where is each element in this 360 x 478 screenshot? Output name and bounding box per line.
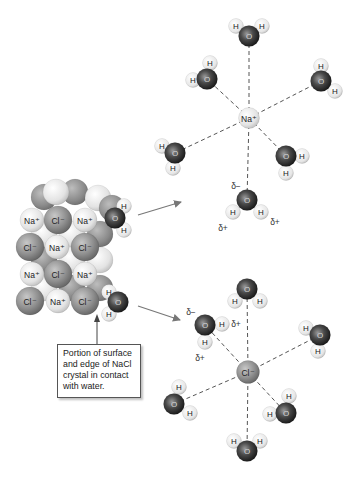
hydrogen-atom-label: H bbox=[315, 347, 321, 356]
hydrogen-atom-label: H bbox=[170, 164, 176, 173]
callout-pointer-head bbox=[94, 314, 100, 322]
hydrogen-atom: H bbox=[172, 380, 187, 395]
nacl-dissolution-diagram: Na⁺Cl⁻Na⁺Cl⁻Na⁺Cl⁻Na⁺Cl⁻Na⁺Cl⁻Na⁺Cl⁻HHOH… bbox=[0, 0, 360, 478]
hydrogen-atom-label: H bbox=[303, 324, 309, 333]
crystal-na-ion: Na⁺ bbox=[20, 262, 44, 286]
hydrogen-atom-label: H bbox=[286, 392, 292, 401]
callout-text: Portion of surface and edge of NaCl crys… bbox=[63, 348, 132, 391]
hydrogen-atom: H bbox=[215, 317, 230, 332]
surface-water-2: HHO bbox=[102, 285, 129, 322]
water-molecules: HHOHHOHHOHHOHHOHHOHHOHHOHHOHHOHHOHHO bbox=[155, 19, 343, 462]
hydrogen-atom: H bbox=[203, 56, 218, 71]
hydrogen-atom-label: H bbox=[259, 22, 265, 31]
hydrogen-atom-label: H bbox=[231, 437, 237, 446]
delta-plus-label: δ+ bbox=[218, 223, 228, 233]
arrow-to-na-cluster bbox=[138, 202, 181, 215]
na-hydration-water-1: HHO bbox=[229, 19, 270, 47]
crystal-cl-ion-label: Cl⁻ bbox=[23, 297, 36, 307]
delta-plus-label: δ+ bbox=[231, 319, 241, 329]
ion-dipole-bond bbox=[175, 118, 249, 153]
na-ion-label: Na⁺ bbox=[241, 114, 257, 124]
crystal-na-ion: Na⁺ bbox=[73, 208, 97, 232]
hydrogen-atom-label: H bbox=[267, 410, 273, 419]
hydrogen-atom-label: H bbox=[176, 383, 182, 392]
na-hydration-water-2: HHO bbox=[186, 56, 218, 90]
delta-minus-label: δ− bbox=[231, 181, 241, 191]
hydrogen-atom-label: H bbox=[232, 297, 238, 306]
crystal-cl-ion-label: Cl⁻ bbox=[23, 243, 36, 253]
crystal-callout-box: Portion of surface and edge of NaCl crys… bbox=[57, 344, 141, 398]
cl-ion: Cl⁻ bbox=[237, 361, 260, 384]
oxygen-label: O bbox=[115, 298, 121, 307]
hydrogen-atom-label: H bbox=[121, 202, 127, 211]
oxygen-label: O bbox=[244, 447, 250, 456]
hydrogen-atom-label: H bbox=[219, 320, 225, 329]
crystal-cl-ion: Cl⁻ bbox=[71, 287, 99, 315]
ion-dipole-bond bbox=[247, 118, 249, 200]
oxygen-label: O bbox=[317, 331, 323, 340]
hydrogen-atom: H bbox=[282, 389, 297, 404]
crystal-na-ion: Na⁺ bbox=[45, 235, 69, 259]
ion-dipole-bonds bbox=[174, 36, 321, 451]
hydrogen-atom-label: H bbox=[121, 226, 127, 235]
ion-dipole-bond bbox=[249, 81, 321, 118]
crystal-cl-ion: Cl⁻ bbox=[44, 206, 72, 234]
oxygen-label: O bbox=[318, 77, 324, 86]
crystal-cl-ion: Cl⁻ bbox=[16, 233, 44, 261]
crystal-na-ion-label: Na⁺ bbox=[77, 270, 93, 280]
na-hydration-water-6: HHO bbox=[226, 190, 269, 220]
crystal-na-ion-label: Na⁺ bbox=[49, 243, 65, 253]
delta-plus-label: δ+ bbox=[270, 217, 280, 227]
hydrogen-atom-label: H bbox=[318, 62, 324, 71]
oxygen-label: O bbox=[283, 409, 289, 418]
cl-hydration-water-2: HHO bbox=[195, 315, 230, 350]
na-hydration-water-3: HHO bbox=[311, 59, 343, 99]
hydrogen-atom: H bbox=[279, 166, 294, 181]
hydrogen-atom: H bbox=[226, 205, 241, 220]
crystal-cl-ion-label: Cl⁻ bbox=[51, 270, 64, 280]
hydrogen-atom-label: H bbox=[159, 142, 165, 151]
ion-dipole-bond bbox=[247, 289, 248, 372]
crystal-na-ion-label: Na⁺ bbox=[50, 297, 66, 307]
hydrogen-atom-label: H bbox=[187, 409, 193, 418]
crystal-cl-ion-label: Cl⁻ bbox=[78, 297, 91, 307]
oxygen-label: O bbox=[246, 32, 252, 41]
crystal-cl-ion-label: Cl⁻ bbox=[78, 243, 91, 253]
na-hydration-water-4: HHO bbox=[155, 139, 186, 176]
oxygen-label: O bbox=[172, 149, 178, 158]
hydrogen-atom-label: H bbox=[283, 169, 289, 178]
hydrogen-atom-label: H bbox=[106, 310, 112, 319]
crystal-na-ion-label: Na⁺ bbox=[24, 270, 40, 280]
ion-dipole-bond bbox=[248, 335, 320, 372]
hydrogen-atom: H bbox=[254, 205, 269, 220]
hydrogen-atom-label: H bbox=[332, 87, 338, 96]
oxygen-label: O bbox=[244, 285, 250, 294]
hydrogen-atom-label: H bbox=[207, 59, 213, 68]
crystal-cl-ion-label: Cl⁻ bbox=[51, 216, 64, 226]
hydrogen-atom: H bbox=[198, 335, 213, 350]
na-hydration-water-5: HHO bbox=[276, 146, 310, 181]
hydrogen-atom-label: H bbox=[257, 297, 263, 306]
hydrogen-atom-label: H bbox=[257, 437, 263, 446]
ion-dipole-bond bbox=[247, 372, 248, 451]
oxygen-label: O bbox=[202, 321, 208, 330]
oxygen-label: O bbox=[244, 196, 250, 205]
cl-hydration-water-3: HHO bbox=[299, 321, 331, 359]
hydrogen-atom: H bbox=[263, 407, 278, 422]
hydrogen-atom: H bbox=[183, 406, 198, 421]
crystal-na-ion-label: Na⁺ bbox=[77, 216, 93, 226]
cl-hydration-water-1: HHO bbox=[228, 279, 268, 309]
hydrogen-atom-label: H bbox=[233, 22, 239, 31]
delta-minus-label: δ− bbox=[186, 307, 196, 317]
na-ion-back bbox=[43, 179, 69, 205]
crystal-cl-ion: Cl⁻ bbox=[71, 233, 99, 261]
crystal-na-ion: Na⁺ bbox=[46, 289, 70, 313]
crystal-na-ion: Na⁺ bbox=[20, 208, 44, 232]
hydrogen-atom: H bbox=[311, 344, 326, 359]
hydrogen-atom-label: H bbox=[230, 208, 236, 217]
hydrogen-atom-label: H bbox=[258, 208, 264, 217]
crystal-na-ion-label: Na⁺ bbox=[24, 216, 40, 226]
arrow-to-cl-cluster bbox=[138, 306, 180, 320]
crystal-cl-ion: Cl⁻ bbox=[16, 287, 44, 315]
crystal-na-ion: Na⁺ bbox=[73, 262, 97, 286]
